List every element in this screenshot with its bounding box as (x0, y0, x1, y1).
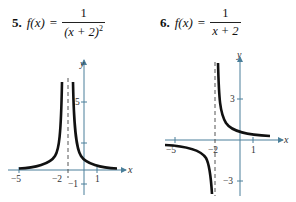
x-tick-label: 1 (95, 174, 100, 184)
curve-right-branch (73, 82, 117, 169)
x-axis-label: x (127, 164, 133, 175)
graph-5: x y −5 −2 1 5 −1 (8, 58, 133, 195)
x-tick-label: −2 (52, 174, 62, 184)
curve-right-branch (218, 63, 270, 136)
y-tick-label: 5 (75, 97, 80, 107)
x-tick-label: −5 (11, 174, 21, 184)
graph-6: x y −5 −2 1 3 −3 (165, 49, 289, 196)
curve-left-branch (19, 82, 62, 169)
y-tick-label: 3 (230, 94, 235, 104)
x-tick-label: −5 (166, 145, 176, 155)
y-axis-label: y (79, 58, 85, 69)
y-tick-label: −3 (223, 176, 233, 186)
y-axis-label: y (236, 49, 242, 60)
graphs-canvas: x y −5 −2 1 5 −1 x y −5 −2 1 3 −3 (0, 0, 296, 202)
x-tick-label: 1 (251, 145, 256, 155)
x-tick-label: −2 (208, 145, 218, 155)
y-tick-label: −1 (68, 179, 78, 189)
x-axis-label: x (283, 134, 289, 145)
